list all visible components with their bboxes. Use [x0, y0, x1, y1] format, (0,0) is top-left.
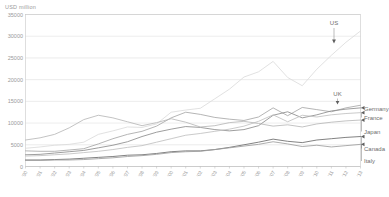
- series-callout-labels: USUKGermanyFranceJapanCanadaItaly: [330, 20, 389, 164]
- y-axis-tick-label: 25000: [8, 55, 23, 61]
- x-axis-tick-label: '93: [64, 169, 73, 178]
- x-axis-tick-label: '97: [122, 169, 131, 178]
- x-axis-tick-label: '06: [253, 169, 262, 178]
- x-axis-tick-label: '90: [20, 169, 29, 178]
- line-chart: USD million 0500010000150002000025000300…: [0, 0, 389, 197]
- x-axis-tick-label: '91: [35, 169, 44, 178]
- y-axis-tick-label: 0: [20, 164, 23, 170]
- us-arrow-icon: [332, 40, 336, 44]
- x-axis-tick-label: '02: [195, 169, 204, 178]
- x-axis-tick-label: '03: [209, 169, 218, 178]
- x-axis-tick-label: '10: [311, 169, 320, 178]
- y-axis-tick-label: 20000: [8, 77, 23, 83]
- series-line-canada: [26, 137, 361, 160]
- x-axis-tick-label: '01: [180, 169, 189, 178]
- y-axis-tick-label: 10000: [8, 120, 23, 126]
- series-label-germany: Germany: [364, 106, 389, 112]
- x-axis-tick-label: '95: [93, 169, 102, 178]
- x-axis-tick-label: '00: [166, 169, 175, 178]
- x-axis-tick-labels: '90'91'92'93'94'95'96'97'98'99'00'01'02'…: [20, 169, 364, 178]
- series-label-uk: UK: [333, 91, 341, 97]
- y-axis-tick-label: 35000: [8, 12, 23, 18]
- series-lines: [26, 31, 361, 160]
- series-label-italy: Italy: [364, 158, 375, 164]
- x-axis-tick-label: '04: [224, 169, 233, 178]
- x-axis-tick-label: '12: [341, 169, 350, 178]
- series-line-germany: [26, 108, 361, 155]
- y-axis-tick-label: 30000: [8, 33, 23, 39]
- chart-canvas: 05000100001500020000250003000035000 '90'…: [0, 0, 389, 197]
- x-axis-tick-label: '05: [239, 169, 248, 178]
- series-line-japan: [26, 115, 361, 140]
- x-axis-tick-label: '13: [355, 169, 364, 178]
- series-label-canada: Canada: [364, 146, 386, 152]
- x-axis-tick-label: '94: [78, 169, 87, 178]
- x-axis-tick-label: '92: [49, 169, 58, 178]
- x-axis-tick-label: '11: [326, 169, 334, 178]
- x-axis-tick-label: '96: [107, 169, 116, 178]
- series-line-us: [26, 31, 361, 148]
- series-label-us: US: [330, 20, 338, 26]
- y-axis-tick-label: 5000: [11, 142, 23, 148]
- x-axis-tick-label: '98: [137, 169, 146, 178]
- series-label-japan: Japan: [364, 129, 380, 135]
- y-axis-tick-labels: 05000100001500020000250003000035000: [8, 12, 23, 170]
- x-axis-tick-label: '09: [297, 169, 306, 178]
- x-axis-tick-label: '08: [282, 169, 291, 178]
- y-axis-tick-label: 15000: [8, 98, 23, 104]
- series-line-uk: [26, 105, 361, 151]
- x-axis-tick-label: '07: [268, 169, 277, 178]
- series-label-france: France: [364, 115, 383, 121]
- x-axis-tick-label: '99: [151, 169, 160, 178]
- uk-arrow-icon: [336, 101, 340, 104]
